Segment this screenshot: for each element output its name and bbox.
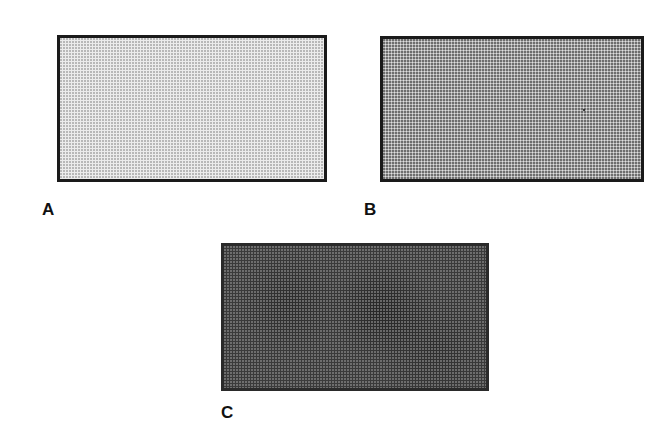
panel-a-label: A <box>42 201 54 218</box>
panel-c-dark-shade <box>221 243 489 391</box>
panel-c-label: C <box>221 404 233 421</box>
panel-b-medium-shade <box>380 36 644 182</box>
panel-b-label: B <box>364 201 376 218</box>
speck-mark <box>583 109 585 111</box>
panel-a-light-shade <box>57 35 327 182</box>
